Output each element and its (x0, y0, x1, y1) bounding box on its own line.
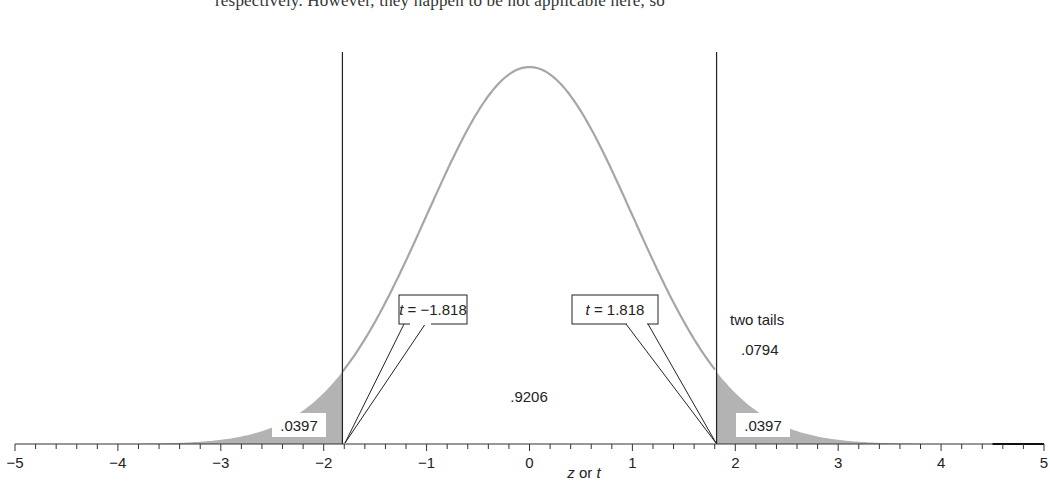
x-tick-label: −4 (109, 454, 126, 471)
two-tails-value: .0794 (741, 341, 779, 358)
x-tick-label: −2 (315, 454, 332, 471)
normal-distribution-chart: .0397 .0397 t = −1.818 t = 1.818 .9206 t… (0, 0, 1050, 484)
x-tick-label: 1 (628, 454, 636, 471)
x-tick-label: 3 (834, 454, 842, 471)
x-tick-label: 2 (731, 454, 739, 471)
x-tick-label: 0 (525, 454, 533, 471)
right-tail-value: .0397 (744, 417, 782, 434)
x-tick-label: 5 (1040, 454, 1048, 471)
x-axis (15, 444, 1044, 451)
curve-path (342, 67, 715, 372)
left-critical-callout: t = −1.818 (345, 295, 467, 443)
x-tick-label: −1 (418, 454, 435, 471)
left-callout-text: t = −1.818 (399, 301, 467, 318)
critical-value-lines (342, 52, 716, 444)
left-tail-label: .0397 (272, 413, 326, 437)
x-tick-label: −3 (212, 454, 229, 471)
x-tick-label: −5 (6, 454, 23, 471)
right-critical-callout: t = 1.818 (572, 295, 716, 443)
left-tail-value: .0397 (280, 417, 318, 434)
x-tick-labels: −5−4−3−2−1012345 (6, 454, 1048, 471)
right-callout-text: t = 1.818 (586, 301, 645, 318)
x-axis-label: z or t (566, 464, 601, 481)
x-tick-label: 4 (937, 454, 945, 471)
two-tails-label: two tails (730, 311, 784, 328)
density-curve (342, 67, 715, 372)
center-area-value: .9206 (510, 388, 548, 405)
right-tail-label: .0397 (736, 413, 790, 437)
